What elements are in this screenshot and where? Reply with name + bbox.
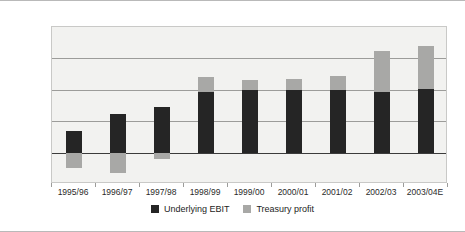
x-axis-tick-label: 2000/01 (278, 187, 309, 197)
x-axis-tick-label: 2003/04E (407, 187, 443, 197)
x-axis-tick-label: 2001/02 (322, 187, 353, 197)
bar-group (96, 27, 140, 182)
bar-group (360, 27, 404, 182)
bar-segment-underlying-ebit (418, 89, 434, 152)
bar-segment-treasury-profit (418, 46, 434, 89)
legend-swatch-underlying-ebit (151, 205, 159, 213)
bar-group (140, 27, 184, 182)
bar-segment-underlying-ebit (154, 107, 170, 153)
legend-item-underlying-ebit: Underlying EBIT (151, 204, 230, 214)
bar-segment-treasury-profit (110, 153, 126, 173)
x-axis-tick-mark (447, 183, 448, 187)
chart-figure: 20%15%10%5%0%-5% 1995/961996/971997/9819… (0, 0, 465, 232)
x-axis-tick-label: 1998/99 (190, 187, 221, 197)
legend-label-treasury-profit: Treasury profit (256, 204, 314, 214)
x-axis-tick-mark (183, 183, 184, 187)
bar-group (404, 27, 448, 182)
x-axis-tick-label: 1996/97 (102, 187, 133, 197)
x-axis-tick-label: 1997/98 (146, 187, 177, 197)
bar-segment-underlying-ebit (286, 90, 302, 153)
x-axis-tick-mark (359, 183, 360, 187)
bar-group (52, 27, 96, 182)
x-axis-tick-mark (95, 183, 96, 187)
x-axis-tick-label: 1995/96 (58, 187, 89, 197)
x-axis-tick-mark (139, 183, 140, 187)
x-axis-tick-mark (315, 183, 316, 187)
bar-segment-underlying-ebit (66, 131, 82, 153)
x-axis-tick-mark (271, 183, 272, 187)
bar-segment-underlying-ebit (110, 114, 126, 153)
x-axis-tick-label: 2002/03 (366, 187, 397, 197)
x-axis-tick-mark (403, 183, 404, 187)
bar-segment-treasury-profit (286, 79, 302, 90)
plot-area (51, 26, 447, 183)
chart-legend: Underlying EBIT Treasury profit (0, 204, 465, 214)
bar-segment-treasury-profit (198, 77, 214, 91)
bar-segment-underlying-ebit (242, 90, 258, 152)
bar-segment-underlying-ebit (374, 92, 390, 153)
x-axis-tick-mark (51, 183, 52, 187)
bar-segment-treasury-profit (154, 153, 170, 159)
bar-group (272, 27, 316, 182)
bar-segment-treasury-profit (66, 153, 82, 169)
bar-group (228, 27, 272, 182)
bar-segment-treasury-profit (242, 80, 258, 91)
legend-label-underlying-ebit: Underlying EBIT (164, 204, 230, 214)
bar-segment-underlying-ebit (330, 90, 346, 152)
x-axis-tick-label: 1999/00 (234, 187, 265, 197)
bar-segment-treasury-profit (330, 76, 346, 90)
bar-segment-treasury-profit (374, 51, 390, 92)
bar-group (184, 27, 228, 182)
bar-group (316, 27, 360, 182)
bar-segment-underlying-ebit (198, 92, 214, 153)
legend-item-treasury-profit: Treasury profit (243, 204, 314, 214)
x-axis-tick-mark (227, 183, 228, 187)
legend-swatch-treasury-profit (243, 205, 251, 213)
